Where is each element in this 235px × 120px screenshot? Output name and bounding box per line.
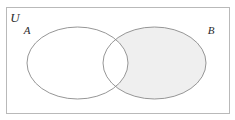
- shaded-region-b-minus-a: [0, 0, 235, 120]
- set-b-label: B: [208, 24, 215, 36]
- venn-diagram-figure: U A B: [0, 0, 235, 120]
- venn-diagram-canvas: U A B: [0, 0, 235, 120]
- universal-set-label: U: [10, 10, 21, 25]
- set-a-label: A: [23, 24, 31, 36]
